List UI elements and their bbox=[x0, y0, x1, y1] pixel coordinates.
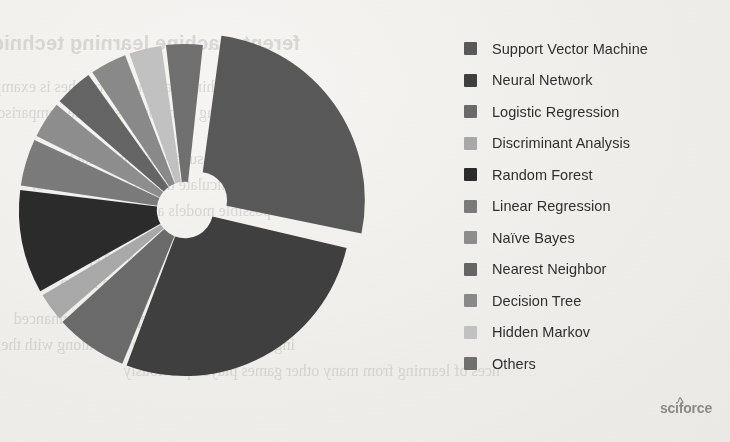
sciforce-caret-icon: ^ bbox=[676, 395, 683, 408]
legend-color-swatch bbox=[464, 42, 477, 55]
legend-item-label: Support Vector Machine bbox=[492, 42, 648, 57]
donut-chart-svg bbox=[0, 0, 460, 418]
legend-item[interactable]: Linear Regression bbox=[464, 191, 730, 223]
scanned-page: ferent machine learning techniques diffe… bbox=[0, 0, 730, 442]
legend-item-label: Nearest Neighbor bbox=[492, 262, 606, 277]
legend-color-swatch bbox=[464, 137, 477, 150]
legend-item[interactable]: Decision Tree bbox=[464, 285, 730, 317]
pie-slice[interactable] bbox=[203, 36, 365, 234]
chart-legend: Support Vector MachineNeural NetworkLogi… bbox=[464, 33, 730, 380]
legend-color-swatch bbox=[464, 200, 477, 213]
legend-item-label: Hidden Markov bbox=[492, 325, 590, 340]
legend-item-label: Logistic Regression bbox=[492, 105, 620, 120]
legend-item[interactable]: Discriminant Analysis bbox=[464, 128, 730, 160]
legend-color-swatch bbox=[464, 263, 477, 276]
legend-item-label: Others bbox=[492, 357, 536, 372]
legend-item-label: Naïve Bayes bbox=[492, 231, 575, 246]
pie-slices bbox=[19, 36, 365, 376]
legend-item-label: Random Forest bbox=[492, 168, 593, 183]
legend-item[interactable]: Hidden Markov bbox=[464, 317, 730, 349]
legend-item[interactable]: Others bbox=[464, 348, 730, 380]
legend-item[interactable]: Logistic Regression bbox=[464, 96, 730, 128]
legend-item[interactable]: Neural Network bbox=[464, 65, 730, 97]
sciforce-wordmark: sciforce bbox=[660, 400, 712, 416]
legend-color-swatch bbox=[464, 231, 477, 244]
legend-item[interactable]: Support Vector Machine bbox=[464, 33, 730, 65]
legend-item-label: Linear Regression bbox=[492, 199, 611, 214]
pie-chart bbox=[0, 0, 460, 418]
legend-item[interactable]: Nearest Neighbor bbox=[464, 254, 730, 286]
legend-color-swatch bbox=[464, 357, 477, 370]
legend-color-swatch bbox=[464, 105, 477, 118]
sciforce-watermark: ^ sciforce bbox=[660, 400, 712, 416]
legend-item-label: Neural Network bbox=[492, 73, 593, 88]
legend-item-label: Decision Tree bbox=[492, 294, 581, 309]
legend-item[interactable]: Naïve Bayes bbox=[464, 222, 730, 254]
legend-item-label: Discriminant Analysis bbox=[492, 136, 630, 151]
legend-color-swatch bbox=[464, 326, 477, 339]
legend-color-swatch bbox=[464, 294, 477, 307]
legend-color-swatch bbox=[464, 168, 477, 181]
legend-color-swatch bbox=[464, 74, 477, 87]
legend-item[interactable]: Random Forest bbox=[464, 159, 730, 191]
